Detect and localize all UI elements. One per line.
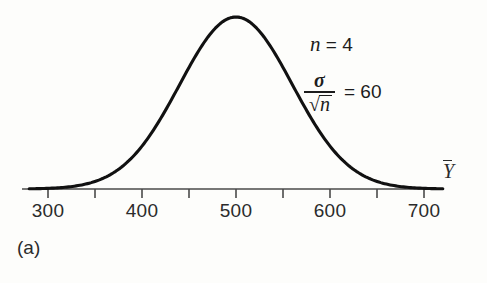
sample-size-value: = 4 [321,34,353,55]
sigma-over-sqrt-n-fraction: σ √n [304,70,335,114]
normal-distribution-figure: 300400500600700 Y n = 4 σ √n = 60 (a) [0,0,487,283]
sample-size-annotation: n = 4 [310,32,450,57]
sqrt-n-denominator: √n [304,93,335,114]
x-axis-tick-label: 400 [112,200,172,222]
y-bar-glyph: Y [443,161,454,181]
figure-caption: (a) [17,237,40,259]
axis-variable-label: Y [443,160,454,183]
x-axis-ticks [48,189,424,198]
x-axis-tick-label: 300 [18,200,78,222]
sigma-symbol: σ [309,70,330,91]
x-axis-tick-label: 700 [394,200,454,222]
n-symbol: n [310,32,321,56]
sqrt-symbol: √ [309,93,320,115]
x-axis-tick-label: 600 [300,200,360,222]
sqrt-radicand: n [320,94,330,114]
annotation-block: n = 4 σ √n = 60 [300,32,450,114]
standard-error-annotation: σ √n = 60 [304,70,450,114]
standard-error-value: = 60 [344,81,382,103]
x-axis-tick-label: 500 [206,200,266,222]
